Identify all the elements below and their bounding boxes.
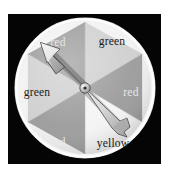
spinner-hub-pin [83,86,86,89]
segment-label-green-top-right: green [99,35,126,48]
segment-label-yellow-bottom-right: yellow [97,137,130,150]
segment-label-red-bottom-left: red [50,136,65,148]
spinner-figure: red green red yellow red green [0,0,170,180]
segment-label-red-right: red [123,86,138,98]
segment-label-green-left: green [24,86,51,99]
spinner-graphic[interactable]: red green red yellow red green [8,14,161,164]
photo-frame: red green red yellow red green [8,14,161,164]
